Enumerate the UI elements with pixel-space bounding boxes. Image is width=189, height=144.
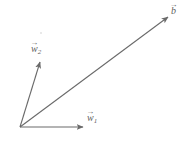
vector-label-w2-subscript: 2 bbox=[38, 48, 42, 56]
vector-label-b: →b bbox=[171, 6, 176, 16]
stray-speck-artifact bbox=[40, 32, 42, 34]
vector-label-b-base: →b bbox=[171, 6, 176, 16]
vector-arrow-accent-icon: → bbox=[86, 108, 94, 116]
vector-label-w1-subscript: 1 bbox=[94, 117, 98, 125]
vector-label-w1-base: →w bbox=[87, 113, 94, 123]
vector-arrow-accent-icon: → bbox=[30, 39, 38, 47]
vector-arrow-w2 bbox=[20, 62, 40, 127]
vector-label-w2-base: →w bbox=[31, 44, 38, 54]
vector-label-w2: →w2 bbox=[31, 44, 41, 56]
vector-label-w1: →w1 bbox=[87, 113, 97, 125]
vector-diagram-figure: →b →w2 →w1 bbox=[0, 0, 189, 144]
vector-arrow-accent-icon: → bbox=[170, 1, 178, 9]
